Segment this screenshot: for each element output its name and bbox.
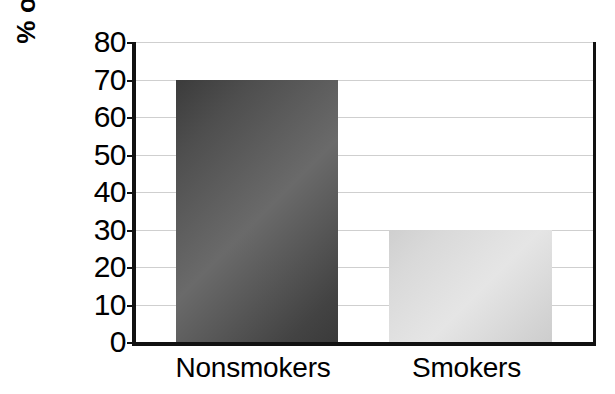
y-axis-title: % of Population: [0, 0, 52, 94]
y-axis-tick-mark: [127, 80, 136, 82]
y-axis-tick-mark: [127, 267, 136, 269]
y-axis-tick-mark: [127, 230, 136, 232]
y-axis-tick-label: 40: [58, 177, 126, 207]
bar-nonsmokers: [176, 80, 338, 343]
y-axis-tick-mark: [127, 117, 136, 119]
y-axis-tick-label: 70: [58, 65, 126, 95]
x-axis-category-label: Nonsmokers: [142, 348, 364, 388]
y-axis-tick-labels: 80706050403020100: [58, 42, 126, 342]
gridline: [136, 42, 593, 43]
y-axis-tick-mark: [127, 342, 136, 344]
y-axis-tick-label: 0: [58, 327, 126, 357]
y-axis-tick-mark: [127, 42, 136, 44]
bar-smokers: [389, 230, 552, 343]
bar-chart-figure: % of Population 80706050403020100 Nonsmo…: [0, 0, 615, 394]
y-axis-tick-label: 80: [58, 27, 126, 57]
y-axis-tick-mark: [127, 305, 136, 307]
plot-area: [132, 42, 596, 346]
y-axis-tick-label: 10: [58, 290, 126, 320]
x-axis-category-label: Smokers: [355, 348, 578, 388]
y-axis-tick-label: 20: [58, 252, 126, 282]
y-axis-tick-mark: [127, 192, 136, 194]
y-axis-tick-label: 50: [58, 140, 126, 170]
plot-inner: [136, 42, 593, 342]
y-axis-tick-label: 30: [58, 215, 126, 245]
y-axis-tick-mark: [127, 155, 136, 157]
y-axis-tick-label: 60: [58, 102, 126, 132]
x-axis-category-labels: NonsmokersSmokers: [132, 348, 592, 392]
